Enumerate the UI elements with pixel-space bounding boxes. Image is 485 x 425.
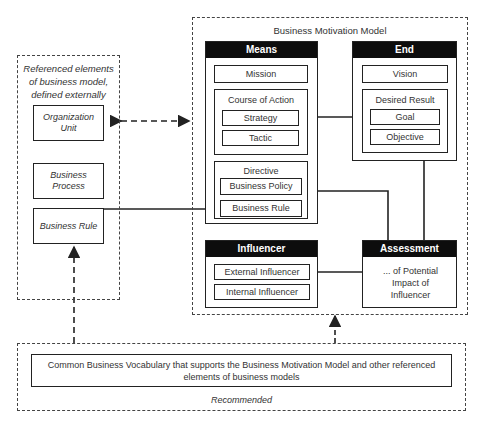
vision-box[interactable]: Vision [362,65,448,83]
recommended-caption: Recommended [18,395,465,405]
influencer-header: Influencer [206,241,317,257]
vocabulary-container: Common Business Vocabulary that supports… [17,343,466,411]
business-policy-box[interactable]: Business Policy [220,178,302,195]
external-influencer-box[interactable]: External Influencer [214,264,310,280]
assessment-group[interactable]: Assessment ... of Potential Impact of In… [362,240,457,308]
mission-box[interactable]: Mission [214,65,308,83]
bmm-title: Business Motivation Model [193,25,467,36]
strategy-box[interactable]: Strategy [222,110,299,126]
course-of-action-label: Course of Action [215,95,307,105]
goal-box[interactable]: Goal [370,109,440,125]
organization-unit-box[interactable]: Organization Unit [33,105,104,141]
end-header: End [353,42,456,58]
tactic-box[interactable]: Tactic [222,130,299,146]
business-rule-directive-box[interactable]: Business Rule [220,200,302,217]
external-elements-container: Referenced elements of business model, d… [17,55,120,300]
means-header: Means [206,42,317,58]
business-process-box[interactable]: Business Process [33,163,104,199]
directive-label: Directive [215,166,307,176]
assessment-header: Assessment [363,241,456,257]
assessment-text: ... of Potential Impact of Influencer [363,257,456,301]
objective-box[interactable]: Objective [370,129,440,145]
internal-influencer-box[interactable]: Internal Influencer [214,284,310,300]
desired-result-label: Desired Result [363,95,447,105]
external-elements-title: Referenced elements of business model, d… [22,62,115,101]
common-vocabulary-box[interactable]: Common Business Vocabulary that supports… [31,354,452,387]
business-rule-external-box[interactable]: Business Rule [33,208,104,244]
